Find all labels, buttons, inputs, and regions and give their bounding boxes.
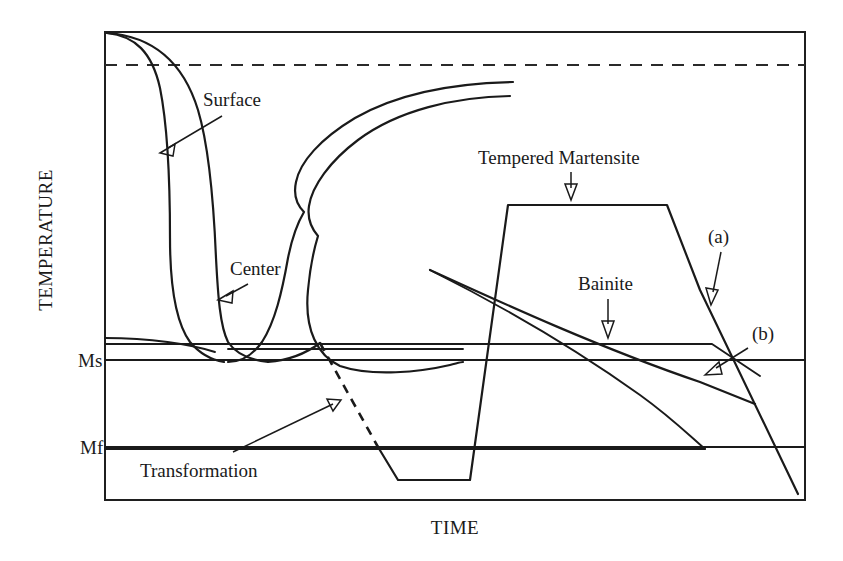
transformation-leader-line xyxy=(233,404,333,452)
center-cooling-curve xyxy=(107,33,268,362)
y-axis-title: TEMPERATURE xyxy=(35,169,56,311)
bainite-label: Bainite xyxy=(578,273,633,294)
center-label: Center xyxy=(230,258,281,279)
transformation-dashed-path xyxy=(320,343,378,447)
curve-a-label: (a) xyxy=(708,226,729,248)
ttt-finish-curve xyxy=(307,96,510,372)
curve-a-leader-line xyxy=(713,252,721,292)
cct-diagram: Surface Center Transformation Tempered M… xyxy=(0,0,843,561)
ms-tick-label: Ms xyxy=(78,350,102,371)
figure-root: Surface Center Transformation Tempered M… xyxy=(0,0,843,561)
surface-cooling-curve xyxy=(107,33,224,362)
curve-b-arrowhead xyxy=(705,362,722,375)
curve-b-label: (b) xyxy=(752,323,774,345)
mf-tick-label: Mf xyxy=(80,437,104,458)
center-arrowhead xyxy=(218,291,233,303)
tempered-martensite-label: Tempered Martensite xyxy=(478,147,640,168)
surface-leader-line xyxy=(168,116,222,148)
transformation-arrowhead xyxy=(327,399,341,411)
surface-label: Surface xyxy=(203,89,261,110)
curve-a-arrowhead xyxy=(706,288,718,305)
transformation-label: Transformation xyxy=(140,460,258,481)
x-axis-title: TIME xyxy=(431,517,479,538)
center-leader-line xyxy=(226,284,248,296)
ttt-start-curve xyxy=(228,82,513,362)
